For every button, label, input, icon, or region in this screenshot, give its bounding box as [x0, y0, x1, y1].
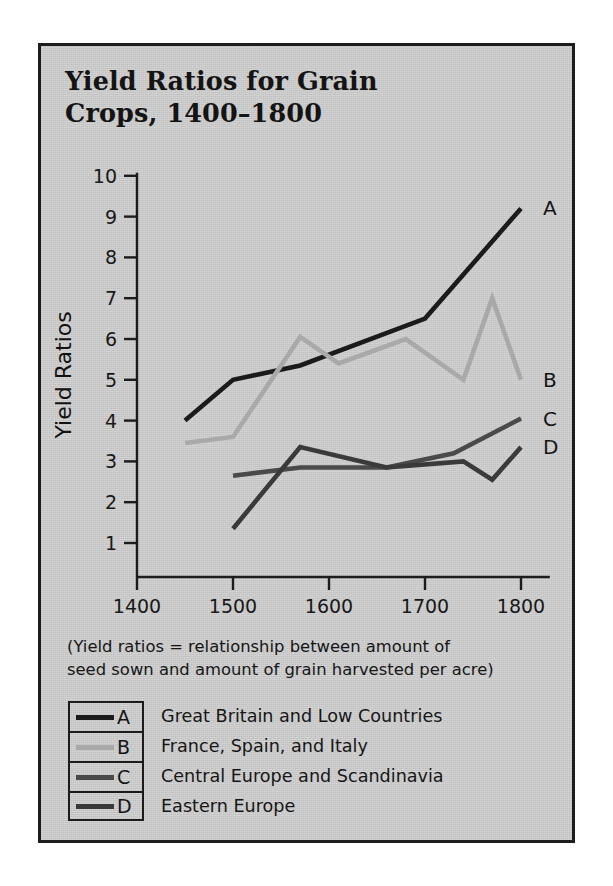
x-tick-label-1500: 1500: [209, 595, 257, 617]
figure-panel: Yield Ratios for Grain Crops, 1400–1800 …: [38, 43, 575, 843]
data-line-D: [233, 447, 521, 529]
legend-row-d: DEastern Europe: [68, 791, 546, 821]
series-tag-B: B: [543, 368, 557, 392]
legend-swatch-icon-b: [76, 745, 114, 750]
y-tick-label-1: 1: [105, 532, 117, 554]
y-tick-label-6: 6: [105, 328, 117, 350]
y-tick-label-7: 7: [105, 287, 117, 309]
y-tick-label-4: 4: [105, 410, 117, 432]
legend-key-c: C: [68, 761, 144, 791]
y-tick-label-8: 8: [105, 246, 117, 268]
series-tag-C: C: [543, 407, 557, 431]
legend-key-b: B: [68, 731, 144, 761]
legend-swatch-icon-d: [76, 804, 114, 809]
x-tick-label-1600: 1600: [305, 595, 353, 617]
legend-key-d: D: [68, 791, 144, 821]
series-tag-D: D: [543, 435, 558, 459]
series-tag-A: A: [543, 196, 557, 220]
legend-letter-b: B: [117, 738, 130, 757]
legend-row-c: CCentral Europe and Scandinavia: [68, 761, 546, 791]
y-tick-label-5: 5: [105, 369, 117, 391]
caption-line-2: seed sown and amount of grain harvested …: [67, 659, 562, 682]
legend-letter-d: D: [117, 797, 132, 816]
x-tick-label-1700: 1700: [401, 595, 449, 617]
legend-swatch-icon-a: [76, 715, 114, 720]
y-tick-label-3: 3: [105, 450, 117, 472]
data-line-B: [185, 298, 521, 443]
data-line-A: [185, 208, 521, 420]
y-tick-label-9: 9: [105, 206, 117, 228]
legend-label-a: Great Britain and Low Countries: [144, 701, 546, 731]
chart-legend: AGreat Britain and Low CountriesBFrance,…: [68, 701, 546, 821]
legend-letter-c: C: [117, 768, 130, 787]
x-tick-label-1400: 1400: [113, 595, 161, 617]
legend-row-a: AGreat Britain and Low Countries: [68, 701, 546, 731]
legend-label-c: Central Europe and Scandinavia: [144, 761, 546, 791]
y-tick-label-10: 10: [93, 165, 117, 187]
x-tick-label-1800: 1800: [497, 595, 545, 617]
legend-key-a: A: [68, 701, 144, 731]
y-tick-label-2: 2: [105, 491, 117, 513]
legend-label-d: Eastern Europe: [144, 791, 546, 821]
chart-caption: (Yield ratios = relationship between amo…: [67, 636, 562, 681]
legend-letter-a: A: [117, 708, 130, 727]
legend-label-b: France, Spain, and Italy: [144, 731, 546, 761]
caption-line-1: (Yield ratios = relationship between amo…: [67, 636, 562, 659]
legend-row-b: BFrance, Spain, and Italy: [68, 731, 546, 761]
legend-swatch-icon-c: [76, 775, 114, 780]
y-axis-title: Yield Ratios: [51, 311, 76, 439]
